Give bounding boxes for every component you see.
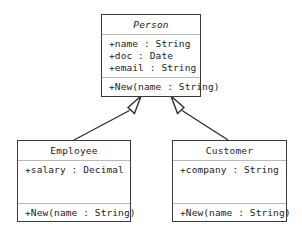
operations-compartment-person: +New(name : String) — [102, 77, 200, 96]
class-title-employee: Employee — [18, 141, 130, 160]
attribute-item: +salary : Decimal — [25, 164, 124, 176]
attributes-compartment-person: +name : String +doc : Date +email : Stri… — [102, 34, 200, 77]
generalization-arrowhead-employee — [128, 96, 141, 114]
operation-item: +New(name : String) — [25, 207, 124, 219]
attributes-compartment-employee: +salary : Decimal — [18, 160, 130, 203]
operations-compartment-employee: +New(name : String) — [18, 203, 130, 221]
attribute-item: +doc : Date — [109, 50, 194, 62]
class-box-person[interactable]: Person +name : String +doc : Date +email… — [101, 14, 201, 97]
operation-item: +New(name : String) — [109, 81, 194, 93]
class-box-customer[interactable]: Customer +company : String +New(name : S… — [172, 140, 287, 222]
attribute-item: +name : String — [109, 38, 194, 50]
class-box-employee[interactable]: Employee +salary : Decimal +New(name : S… — [17, 140, 131, 222]
generalization-line-customer — [182, 111, 228, 141]
attribute-item: +email : String — [109, 62, 194, 74]
class-title-customer: Customer — [173, 141, 286, 160]
operations-compartment-customer: +New(name : String) — [173, 203, 286, 221]
attributes-compartment-customer: +company : String — [173, 160, 286, 203]
operation-item: +New(name : String) — [180, 207, 280, 219]
attribute-item: +company : String — [180, 164, 280, 176]
uml-class-diagram: Person +name : String +doc : Date +email… — [0, 0, 302, 236]
class-title-person: Person — [102, 15, 200, 34]
generalization-line-employee — [74, 111, 130, 141]
